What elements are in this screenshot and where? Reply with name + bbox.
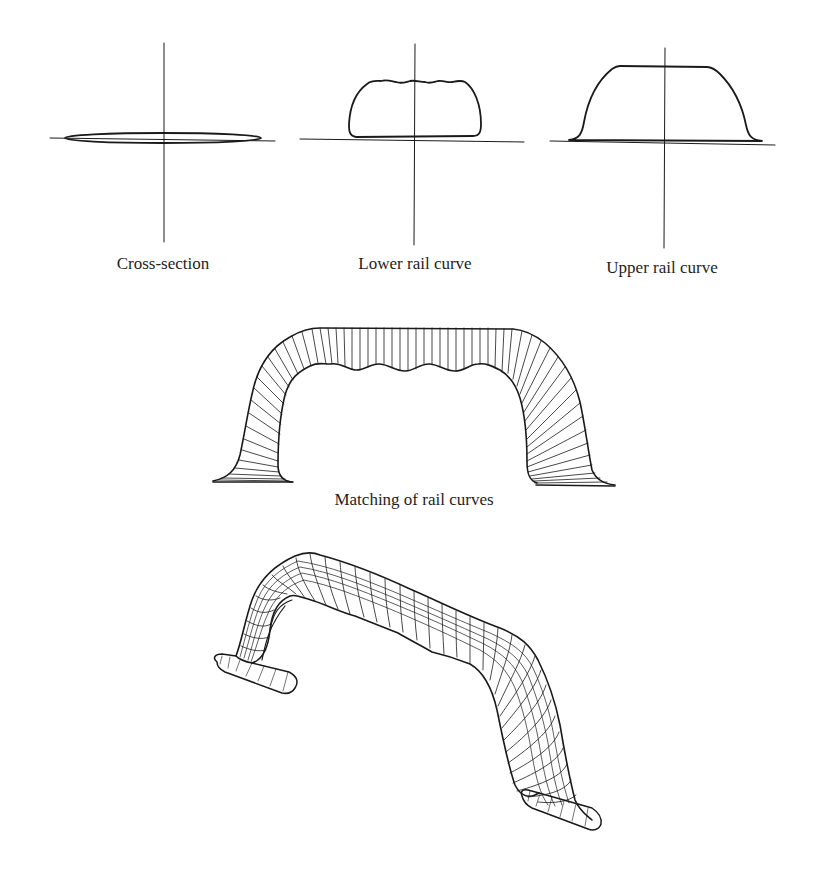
outer-rail <box>213 328 615 485</box>
handle-underside <box>262 600 292 660</box>
longitudinal-mesh <box>240 561 569 806</box>
cross-section-diagram <box>50 43 275 242</box>
lower-rail-diagram <box>300 44 524 245</box>
matching-of-rail-curves-label: Matching of rail curves <box>334 490 493 510</box>
vertical-axis <box>414 44 415 245</box>
cross-section-label: Cross-section <box>117 254 210 274</box>
upper-rail-curve <box>569 66 762 141</box>
upper-rail-diagram <box>550 48 775 248</box>
figure-canvas <box>0 0 816 885</box>
lower-rail-curve-label: Lower rail curve <box>358 254 471 274</box>
inner-rail <box>278 364 537 484</box>
upper-rail-curve-label: Upper rail curve <box>606 258 717 278</box>
right-base <box>536 485 615 486</box>
left-foot <box>215 654 297 693</box>
wireframe-handle-3d <box>215 553 602 830</box>
handle-inner-silhouette <box>252 595 539 796</box>
matching-diagram <box>213 328 615 486</box>
rulings <box>218 328 607 483</box>
horizontal-axis <box>300 139 524 142</box>
foot-mesh <box>220 656 588 826</box>
cross-section-rings <box>238 554 576 803</box>
cross-section-ellipse <box>65 133 261 143</box>
vertical-axis <box>664 48 665 248</box>
